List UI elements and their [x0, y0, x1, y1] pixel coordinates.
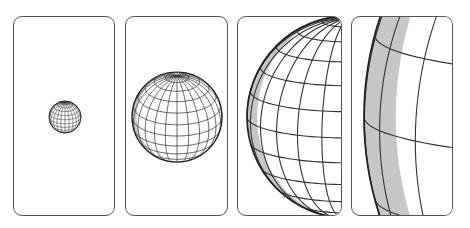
sphere-closest	[352, 17, 453, 216]
sphere-close	[238, 17, 342, 216]
panel-4: Closest view	[351, 16, 453, 216]
panel-3: Close view	[237, 16, 342, 216]
sphere-far	[14, 17, 115, 216]
panel-1: Far view	[13, 16, 115, 216]
sphere-near	[126, 17, 228, 216]
panel-2: Near view	[125, 16, 228, 216]
